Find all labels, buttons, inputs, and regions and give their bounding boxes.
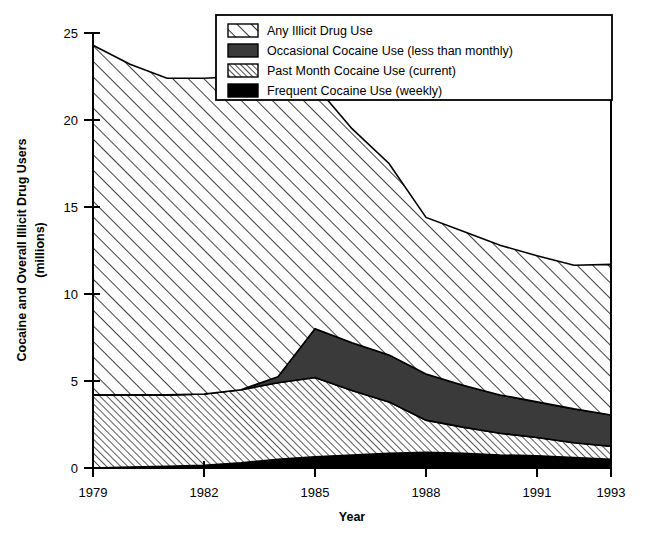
stacked-area-chart: 0510152025 197919821985198819911993 Year…: [0, 0, 646, 540]
y-tick-label: 15: [64, 200, 78, 215]
legend-swatch-3: [228, 84, 258, 97]
x-axis-title: Year: [339, 510, 366, 524]
y-tick-label: 25: [64, 26, 78, 41]
y-axis-title-line1: Cocaine and Overall Illicit Drug Users: [15, 138, 29, 361]
legend-label-1: Occasional Cocaine Use (less than monthl…: [267, 44, 513, 58]
legend-swatch-0: [228, 24, 258, 37]
legend-swatch-1: [228, 44, 258, 57]
y-tick-label: 0: [71, 461, 78, 476]
x-tick-label: 1991: [523, 485, 552, 500]
x-tick-label: 1988: [412, 485, 441, 500]
y-tick-label: 10: [64, 287, 78, 302]
legend-label-3: Frequent Cocaine Use (weekly): [267, 84, 442, 98]
x-tick-label: 1982: [190, 485, 219, 500]
legend-swatch-2: [228, 64, 258, 77]
x-tick-label: 1979: [79, 485, 108, 500]
chart-legend: Any Illicit Drug UseOccasional Cocaine U…: [216, 15, 612, 100]
y-axis-title-line2: (millions): [33, 222, 47, 278]
legend-label-0: Any Illicit Drug Use: [267, 24, 373, 38]
x-tick-label: 1985: [301, 485, 330, 500]
legend-label-2: Past Month Cocaine Use (current): [267, 64, 456, 78]
x-tick-label: 1993: [597, 485, 626, 500]
y-tick-label: 5: [71, 374, 78, 389]
y-tick-label: 20: [64, 113, 78, 128]
chart-figure: 0510152025 197919821985198819911993 Year…: [0, 0, 646, 540]
